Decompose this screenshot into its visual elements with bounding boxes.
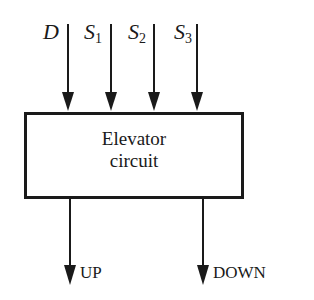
output-label-up: UP [80,263,102,283]
output-arrow-up [64,199,76,285]
input-label-s3: S3 [174,19,192,47]
output-label-down: DOWN [213,263,266,283]
input-label-s2: S2 [128,19,146,47]
block-label-line2: circuit [24,150,244,172]
input-label-s3-sub: 3 [185,31,192,46]
input-label-s1-text: S [84,19,95,44]
input-arrow-s1 [105,24,117,111]
block-label: Elevator circuit [24,128,244,172]
input-label-d: D [43,19,59,45]
output-arrow-down [197,199,209,285]
input-label-s1: S1 [84,19,102,47]
input-label-s2-text: S [128,19,139,44]
input-arrow-s2 [148,24,160,111]
input-arrow-d [62,24,74,111]
input-label-d-text: D [43,19,59,44]
elevator-block-diagram: D S1 S2 S3 Elevator circuit UP DOWN [0,0,314,300]
input-label-s1-sub: 1 [95,31,102,46]
input-arrow-s3 [191,24,203,111]
input-label-s2-sub: 2 [139,31,146,46]
input-label-s3-text: S [174,19,185,44]
block-label-line1: Elevator [24,128,244,150]
